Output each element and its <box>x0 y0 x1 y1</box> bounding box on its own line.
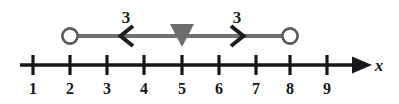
tick-label-1: 1 <box>29 80 37 97</box>
tick-label-4: 4 <box>140 80 148 97</box>
endpoint-open-circle-8 <box>282 28 297 43</box>
number-line-figure: 3 3 1 2 3 4 5 6 7 8 <box>0 0 399 104</box>
tick-label-3: 3 <box>103 80 111 97</box>
axis-arrowhead-icon <box>352 57 372 74</box>
distance-label-right: 3 <box>233 8 242 27</box>
tick-label-7: 7 <box>252 80 260 97</box>
tick-label-8: 8 <box>286 80 294 97</box>
axis-variable-label: x <box>374 56 384 75</box>
tick-label-9: 9 <box>323 80 331 97</box>
tick-label-2: 2 <box>66 80 74 97</box>
tick-label-5: 5 <box>178 80 186 97</box>
number-line-svg: 3 3 1 2 3 4 5 6 7 8 <box>0 0 399 104</box>
endpoint-open-circle-2 <box>62 28 77 43</box>
distance-label-left: 3 <box>122 8 131 27</box>
tick-label-6: 6 <box>215 80 223 97</box>
